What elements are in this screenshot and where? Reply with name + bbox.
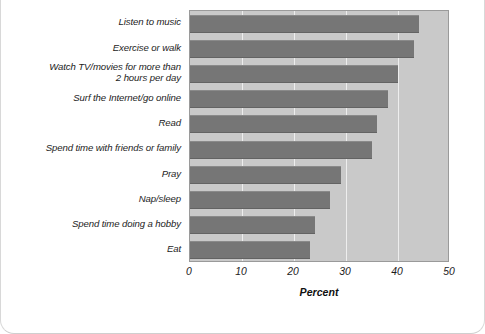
bar-row (190, 241, 449, 259)
plot-area (189, 10, 449, 262)
bar[interactable] (190, 191, 330, 209)
bar-row (190, 191, 449, 209)
x-tick-label-40: 40 (391, 266, 403, 277)
bar-row (190, 65, 449, 83)
horizontal-bar-chart: Listen to musicExercise or walkWatch TV/… (1, 0, 485, 334)
chart-card: Listen to musicExercise or walkWatch TV/… (0, 0, 485, 334)
x-tick-label-50: 50 (443, 266, 455, 277)
bar-row (190, 40, 449, 58)
bar[interactable] (190, 216, 315, 234)
value-axis-tick-labels: 01020304050 (1, 266, 485, 282)
x-tick-label-10: 10 (235, 266, 247, 277)
category-label: Listen to music (119, 17, 182, 28)
category-label: Surf the Internet/go online (73, 93, 181, 104)
category-label: Spend time with friends or family (46, 143, 181, 154)
category-label: Read (158, 118, 181, 129)
category-label: Pray (162, 169, 181, 180)
x-tick-label-30: 30 (339, 266, 351, 277)
bar[interactable] (190, 141, 372, 159)
bar-row (190, 166, 449, 184)
category-label: Watch TV/movies for more than 2 hours pe… (49, 62, 181, 83)
bar-row (190, 15, 449, 33)
bar-row (190, 216, 449, 234)
x-tick-label-0: 0 (186, 266, 192, 277)
x-axis-title: Percent (189, 286, 449, 298)
bar[interactable] (190, 90, 388, 108)
category-label: Exercise or walk (113, 43, 181, 54)
bar-row (190, 141, 449, 159)
bar[interactable] (190, 15, 419, 33)
category-label: Eat (167, 244, 181, 255)
x-tick-label-20: 20 (287, 266, 299, 277)
category-label: Spend time doing a hobby (72, 219, 181, 230)
bar[interactable] (190, 65, 398, 83)
bar-series (190, 11, 448, 261)
bar-row (190, 115, 449, 133)
category-axis-labels: Listen to musicExercise or walkWatch TV/… (1, 10, 185, 262)
bar-row (190, 90, 449, 108)
bar[interactable] (190, 166, 341, 184)
category-label: Nap/sleep (139, 194, 181, 205)
bar[interactable] (190, 115, 377, 133)
bar[interactable] (190, 40, 414, 58)
bar[interactable] (190, 241, 310, 259)
